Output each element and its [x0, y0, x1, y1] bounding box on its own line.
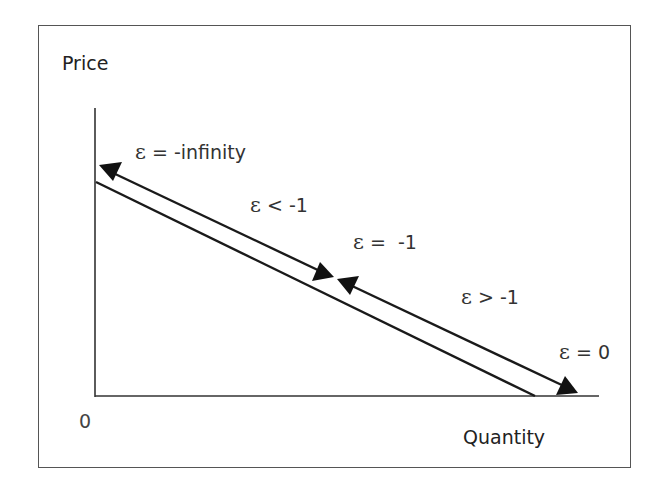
epsilon-symbol: ε — [353, 230, 364, 254]
arrowhead-mid-left-icon — [312, 262, 334, 281]
arrowhead-top-icon — [99, 162, 122, 181]
elasticity-relation: = -1 — [370, 231, 417, 253]
epsilon-symbol: ε — [461, 285, 472, 309]
elasticity-relation: < -1 — [267, 194, 308, 216]
epsilon-symbol: ε — [559, 340, 570, 364]
elasticity-label-unit-elastic: ε = -1 — [353, 230, 417, 254]
arrowhead-bottom-icon — [556, 376, 578, 395]
epsilon-symbol: ε — [250, 193, 261, 217]
y-axis-label: Price — [62, 52, 108, 74]
elasticity-diagram — [0, 0, 667, 496]
arrowhead-mid-right-icon — [337, 276, 359, 295]
elasticity-relation: = -infinity — [152, 141, 246, 163]
elasticity-label-perfectly-inelastic: ε = 0 — [559, 340, 610, 364]
elasticity-relation: > -1 — [478, 286, 519, 308]
elastic-range-arrow-line — [111, 172, 322, 272]
elasticity-relation: = 0 — [576, 341, 610, 363]
elasticity-label-perfectly-elastic: ε = -infinity — [135, 140, 246, 164]
elasticity-label-elastic: ε < -1 — [250, 193, 308, 217]
x-axis-label: Quantity — [463, 426, 545, 448]
origin-label: 0 — [79, 410, 91, 432]
epsilon-symbol: ε — [135, 140, 146, 164]
inelastic-range-arrow-line — [350, 285, 566, 387]
elasticity-label-inelastic: ε > -1 — [461, 285, 519, 309]
